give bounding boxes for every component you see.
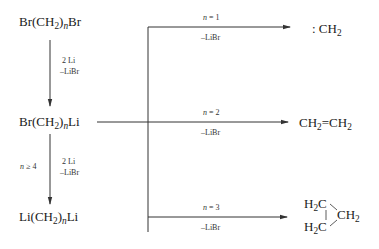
- branch3-condition: n = 3: [203, 203, 220, 212]
- dilithio-formula: Li(CH2)nLi: [19, 209, 78, 225]
- step2-byproduct: –LiBr: [60, 168, 79, 177]
- cyclopropane-right: CH2: [337, 207, 360, 223]
- cyclopropane-bottom: H2C: [304, 219, 327, 235]
- branch2-byproduct: –LiBr: [201, 128, 220, 137]
- bromo-lithio-formula: Br(CH2)nLi: [19, 114, 80, 130]
- branch3-byproduct: –LiBr: [201, 223, 220, 232]
- step1-reagent: 2 Li: [62, 56, 75, 65]
- branch1-byproduct: –LiBr: [201, 33, 220, 42]
- carbene-formula: : CH2: [312, 21, 342, 37]
- dibromide-formula: Br(CH2)nBr: [19, 14, 81, 30]
- branch1-condition: n = 1: [203, 13, 220, 22]
- step2-condition: n ≥ 4: [20, 162, 36, 171]
- step2-reagent: 2 Li: [62, 157, 75, 166]
- cyclopropane-top: H2C: [304, 196, 327, 212]
- ethylene-formula: CH2=CH2: [299, 115, 352, 131]
- branch2-condition: n = 2: [203, 108, 220, 117]
- step1-byproduct: –LiBr: [60, 67, 79, 76]
